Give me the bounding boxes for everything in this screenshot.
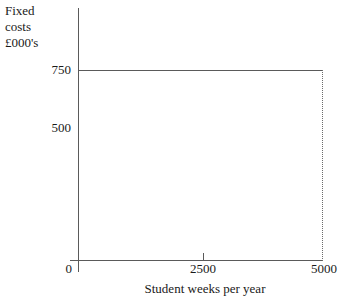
x-tick-label-5000: 5000 [299,262,339,275]
y-axis-title-line-1: Fixed [5,3,38,19]
y-axis-line [78,8,79,272]
y-tick-label-500: 500 [31,121,71,134]
x-tick-label-2500: 2500 [178,262,228,275]
y-axis-title-line-2: costs [5,19,38,35]
y-tick-label-750: 750 [31,63,71,76]
x-axis-title: Student weeks per year [119,281,291,296]
x-tick-label-0: 0 [56,262,72,275]
y-axis-title-line-3: £000's [5,35,38,51]
fixed-costs-series-line [78,70,323,71]
y-axis-title: Fixed costs £000's [5,3,38,51]
fixed-costs-chart: Fixed costs £000's 750 500 0 2500 5000 S… [0,0,339,301]
drop-line-at-5000 [322,70,323,261]
x-tick-mark-2500 [203,253,204,260]
